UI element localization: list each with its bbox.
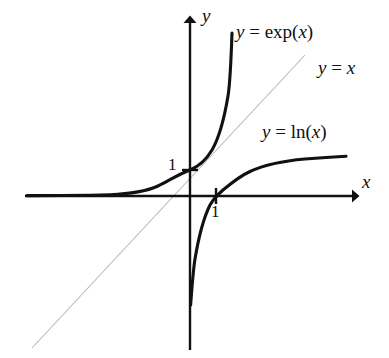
y-axis-label: y <box>202 6 210 25</box>
y-axis-arrowhead <box>184 16 197 24</box>
exp-curve-label: y = exp(x) <box>236 22 313 41</box>
ln-curve <box>191 156 346 305</box>
identity-line-label: y = x <box>318 58 355 77</box>
plot-canvas <box>0 0 389 358</box>
tick-label-x-one: 1 <box>211 203 220 220</box>
exp-curve <box>27 33 232 196</box>
x-axis-arrowhead <box>352 190 360 203</box>
tick-label-y-one: 1 <box>168 156 177 173</box>
x-axis-label: x <box>362 172 370 191</box>
identity-line <box>32 55 305 348</box>
exp-ln-function-graph: y = exp(x) y = x y = ln(x) y x 1 1 <box>0 0 389 358</box>
ln-curve-label: y = ln(x) <box>262 122 327 141</box>
